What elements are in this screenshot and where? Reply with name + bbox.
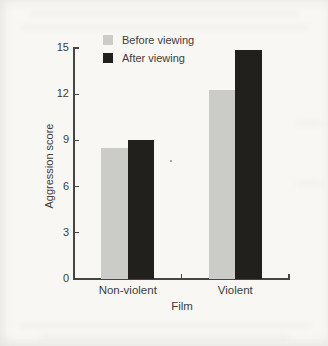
bar-after-viewing-non-violent: [128, 140, 155, 279]
legend-label-before-viewing: Before viewing: [122, 34, 194, 46]
bar-before-viewing-violent: [209, 90, 236, 279]
y-tick-label-3: 3: [39, 226, 69, 239]
legend-item-before-viewing: Before viewing: [103, 34, 194, 46]
x-tick-end: [288, 274, 289, 279]
y-tick-label-12: 12: [39, 87, 69, 100]
y-tick-label-0: 0: [39, 272, 69, 285]
bar-before-viewing-non-violent: [101, 148, 128, 279]
y-tick-3: [75, 232, 80, 233]
legend-label-after-viewing: After viewing: [122, 52, 185, 64]
scan-bleed-artifact: [40, 334, 290, 341]
scan-bleed-artifact: [18, 322, 313, 329]
bar-after-viewing-violent: [235, 50, 262, 279]
scanned-page: Aggression score Film Before viewing Aft…: [0, 0, 328, 346]
y-tick-15: [75, 47, 80, 48]
scan-bleed-artifact: [30, 10, 300, 17]
legend-swatch-after-viewing: [103, 53, 113, 63]
y-tick-label-6: 6: [39, 180, 69, 193]
scan-bleed-artifact: [295, 120, 323, 127]
legend: Before viewing After viewing: [103, 34, 194, 70]
y-tick-label-15: 15: [39, 41, 69, 54]
legend-swatch-before-viewing: [103, 35, 113, 45]
x-tick-mid: [181, 274, 182, 279]
scan-bleed-artifact: [20, 24, 310, 31]
x-category-label-non-violent: Non-violent: [99, 284, 157, 296]
y-tick-9: [75, 140, 80, 141]
x-category-label-violent: Violent: [218, 284, 253, 296]
scan-speck-artifact: [170, 160, 172, 162]
scan-bleed-artifact: [295, 180, 323, 187]
y-tick-label-9: 9: [39, 133, 69, 146]
legend-item-after-viewing: After viewing: [103, 52, 194, 64]
x-axis-title: Film: [171, 300, 193, 312]
y-axis-line: [73, 47, 75, 279]
y-tick-6: [75, 186, 80, 187]
y-tick-12: [75, 94, 80, 95]
